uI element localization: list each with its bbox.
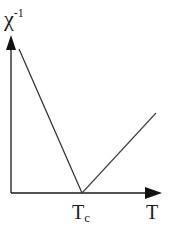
tc-label: Tc [72,201,90,225]
chart: χ-1 Tc T [0,0,170,236]
series-below-tc [19,49,82,193]
x-axis-label: T [146,201,158,223]
y-axis-label: χ-1 [3,6,24,31]
x-axis-arrow-icon [145,187,162,199]
series-above-tc [82,113,156,193]
y-axis-arrow-icon [6,35,16,50]
